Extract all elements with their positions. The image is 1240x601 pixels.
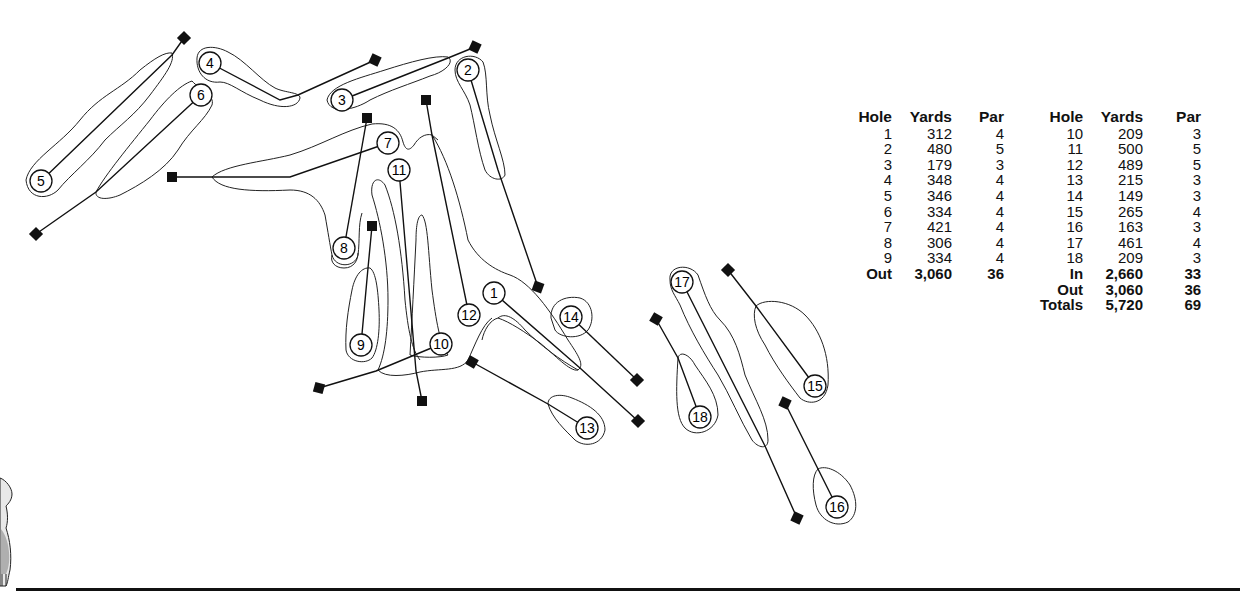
hole-label-1[interactable]: 1 [483, 282, 505, 304]
cell-hole: 3 [852, 157, 892, 173]
total-row-in: In2,66033 [1040, 266, 1201, 282]
hole-label-11[interactable]: 11 [388, 159, 410, 181]
tee-marker-18 [649, 312, 663, 326]
table-row: 93344 [852, 250, 1004, 266]
hole-label-5[interactable]: 5 [30, 170, 52, 192]
table-row: 43484 [852, 172, 1004, 188]
tee-marker-10 [313, 382, 325, 394]
line-hole-17 [682, 282, 797, 518]
hole-labels: 1 2 3 4 5 6 7 8 9 10 11 12 13 14 15 16 1… [30, 52, 848, 518]
header-par: Par [952, 109, 1004, 126]
cell-yards: 480 [892, 141, 952, 157]
cell-yards: 149 [1083, 188, 1143, 204]
cell-par: 4 [952, 204, 1004, 220]
fairway-hole-17 [670, 267, 768, 447]
hole-label-12[interactable]: 12 [458, 304, 480, 326]
cell-par: 4 [952, 219, 1004, 235]
cell-par: 4 [952, 126, 1004, 142]
hole-label-10[interactable]: 10 [430, 333, 452, 355]
cell-yards: 265 [1083, 204, 1143, 220]
svg-text:16: 16 [829, 499, 845, 515]
hole-label-8[interactable]: 8 [333, 237, 355, 259]
scorecard-back-nine: Hole Yards Par 102093 115005 124895 1321… [1040, 109, 1201, 313]
cell-yards: 489 [1083, 157, 1143, 173]
hole-label-7[interactable]: 7 [377, 132, 399, 154]
cell-hole: 10 [1040, 126, 1083, 142]
cell-yards: 312 [892, 126, 952, 142]
svg-text:14: 14 [563, 309, 579, 325]
hole-label-6[interactable]: 6 [190, 84, 212, 106]
cell-par: 5 [1143, 157, 1201, 173]
table-row: 115005 [1040, 141, 1201, 157]
svg-text:5: 5 [37, 173, 45, 189]
scorecard-header: Hole Yards Par [852, 109, 1004, 126]
svg-text:3: 3 [338, 92, 346, 108]
cell-hole: 16 [1040, 219, 1083, 235]
cell-hole: 5 [852, 188, 892, 204]
table-row: 74214 [852, 219, 1004, 235]
cell-yards: 334 [892, 204, 952, 220]
table-row: 102093 [1040, 126, 1201, 142]
svg-text:15: 15 [807, 378, 823, 394]
total-row-out: Out3,06036 [852, 266, 1004, 282]
cell-par: 3 [1143, 172, 1201, 188]
table-row: 31793 [852, 157, 1004, 173]
cell-hole: 4 [852, 172, 892, 188]
hole-label-15[interactable]: 15 [804, 375, 826, 397]
cell-yards: 461 [1083, 235, 1143, 251]
tee-marker-3 [468, 40, 481, 53]
table-row: 24805 [852, 141, 1004, 157]
hole-label-3[interactable]: 3 [331, 89, 353, 111]
header-yards: Yards [1083, 109, 1143, 126]
tee-marker-9 [367, 221, 377, 231]
hole-label-17[interactable]: 17 [671, 271, 693, 293]
svg-text:17: 17 [674, 274, 690, 290]
hole-label-18[interactable]: 18 [689, 406, 711, 428]
hole-label-16[interactable]: 16 [826, 496, 848, 518]
fairway-hole-12 [432, 135, 581, 370]
cell-hole: 7 [852, 219, 892, 235]
total-label: Out [852, 266, 892, 282]
cell-hole: 15 [1040, 204, 1083, 220]
hole-label-13[interactable]: 13 [576, 417, 598, 439]
header-hole: Hole [1040, 109, 1083, 126]
cell-par: 4 [952, 235, 1004, 251]
total-par: 36 [1143, 282, 1201, 298]
cell-hole: 2 [852, 141, 892, 157]
svg-text:6: 6 [197, 87, 205, 103]
table-row: 141493 [1040, 188, 1201, 204]
svg-text:7: 7 [384, 135, 392, 151]
scorecard-front-nine: Hole Yards Par 13124 24805 31793 43484 5… [852, 109, 1004, 282]
cell-par: 3 [952, 157, 1004, 173]
line-hole-8 [344, 118, 367, 248]
table-row: 152654 [1040, 204, 1201, 220]
cell-hole: 14 [1040, 188, 1083, 204]
cell-par: 4 [1143, 204, 1201, 220]
cell-hole: 1 [852, 126, 892, 142]
cell-par: 4 [952, 250, 1004, 266]
total-yards: 3,060 [1083, 282, 1143, 298]
tee-marker-12 [421, 95, 431, 105]
cell-par: 4 [1143, 235, 1201, 251]
total-yards: 3,060 [892, 266, 952, 282]
cell-hole: 18 [1040, 250, 1083, 266]
table-row: 13124 [852, 126, 1004, 142]
table-row: 132153 [1040, 172, 1201, 188]
cell-yards: 500 [1083, 141, 1143, 157]
fairway-hole-11 [372, 180, 420, 370]
hole-label-2[interactable]: 2 [457, 59, 479, 81]
cell-hole: 9 [852, 250, 892, 266]
tee-marker-6 [29, 227, 43, 241]
table-row: 63344 [852, 204, 1004, 220]
svg-text:13: 13 [579, 420, 595, 436]
total-row-out: Out3,06036 [1040, 282, 1201, 298]
total-yards: 2,660 [1083, 266, 1143, 282]
total-label: In [1040, 266, 1083, 282]
svg-text:10: 10 [433, 336, 449, 352]
hole-label-14[interactable]: 14 [560, 306, 582, 328]
table-row: 161633 [1040, 219, 1201, 235]
hole-label-4[interactable]: 4 [199, 52, 221, 74]
cell-par: 5 [1143, 141, 1201, 157]
hole-label-9[interactable]: 9 [350, 334, 372, 356]
cell-par: 4 [952, 188, 1004, 204]
